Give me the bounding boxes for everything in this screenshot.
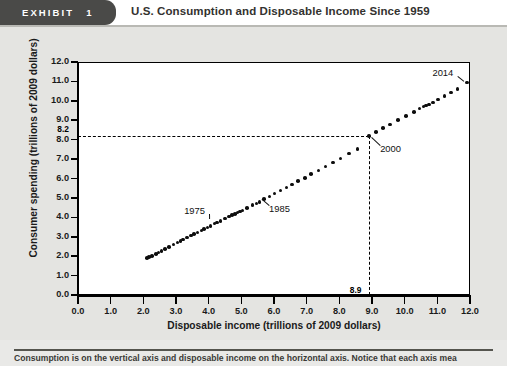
y-axis: [77, 62, 79, 297]
data-point: [374, 130, 378, 134]
point-annotation-1985: 1985: [269, 203, 290, 214]
point-annotation-1975: 1975: [184, 205, 205, 216]
y-tick-label: 10.0: [51, 95, 69, 105]
point-annotation-2014: 2014: [432, 67, 453, 78]
x-tick: [77, 297, 79, 304]
y-tick-label: 0.0: [56, 289, 69, 299]
x-tick: [469, 297, 471, 304]
data-point: [290, 183, 294, 187]
exhibit-header: EXHIBIT 1 U.S. Consumption and Disposabl…: [0, 0, 507, 25]
x-tick: [404, 297, 406, 304]
x-tick: [371, 297, 373, 304]
data-point: [258, 200, 262, 204]
x-tick: [273, 297, 275, 304]
data-point: [412, 110, 416, 114]
reference-line-vertical: [369, 136, 370, 295]
exhibit-title: U.S. Consumption and Disposable Income S…: [131, 5, 430, 17]
data-point: [245, 206, 249, 210]
y-tick-label: 8.0: [56, 134, 69, 144]
y-tick-label: 6.0: [56, 173, 69, 183]
x-tick: [241, 297, 243, 304]
y-tick: [71, 61, 78, 63]
data-point: [381, 126, 385, 130]
y-tick-label: 2.0: [56, 250, 69, 260]
data-point: [209, 224, 213, 228]
x-tick: [306, 297, 308, 304]
y-tick-label: 12.0: [51, 56, 69, 66]
data-point: [219, 219, 223, 223]
x-tick: [143, 297, 145, 304]
reference-value-x: 8.9: [350, 285, 362, 295]
reference-line-horizontal: [78, 136, 369, 137]
reference-value-y: 8.2: [57, 124, 69, 134]
caption-divider: [14, 349, 493, 351]
y-tick-label: 9.0: [56, 114, 69, 124]
y-axis-title: Consumer spending (trillions of 2009 dol…: [28, 48, 39, 258]
data-point: [427, 103, 431, 107]
y-tick: [71, 217, 78, 219]
data-point: [404, 114, 408, 118]
y-tick: [71, 139, 78, 141]
x-axis-title: Disposable income (trillions of 2009 dol…: [78, 320, 470, 331]
y-tick-label: 5.0: [56, 192, 69, 202]
data-point: [296, 179, 300, 183]
data-point: [465, 81, 469, 85]
y-tick-label: 3.0: [56, 231, 69, 241]
y-tick: [71, 275, 78, 277]
data-point: [331, 161, 335, 165]
point-annotation-2000: 2000: [380, 143, 401, 154]
y-tick: [71, 81, 78, 83]
data-point: [396, 118, 400, 122]
figure-caption: Consumption is on the vertical axis and …: [14, 353, 500, 364]
x-tick: [110, 297, 112, 304]
y-tick: [71, 197, 78, 199]
y-tick-label: 4.0: [56, 211, 69, 221]
y-tick-label: 1.0: [56, 270, 69, 280]
y-tick: [71, 236, 78, 238]
y-tick: [71, 178, 78, 180]
x-tick: [339, 297, 341, 304]
y-tick: [71, 100, 78, 102]
x-tick: [208, 297, 210, 304]
exhibit-label: EXHIBIT: [22, 7, 74, 18]
y-tick: [71, 158, 78, 160]
y-tick-label: 11.0: [52, 75, 69, 85]
y-tick: [71, 119, 78, 121]
exhibit-number: 1: [86, 7, 91, 18]
y-tick: [71, 255, 78, 257]
plot-area: [78, 62, 470, 295]
data-point: [163, 247, 167, 251]
figure-body: Consumer spending (trillions of 2009 dol…: [0, 27, 507, 340]
data-point: [303, 176, 307, 180]
x-tick: [175, 297, 177, 304]
y-tick-label: 7.0: [56, 153, 69, 163]
exhibit-tab: EXHIBIT 1: [0, 0, 116, 25]
y-tick: [71, 294, 78, 296]
data-point: [167, 245, 171, 249]
x-tick-label: 12.0: [450, 306, 490, 316]
data-point: [431, 101, 435, 105]
x-tick: [437, 297, 439, 304]
